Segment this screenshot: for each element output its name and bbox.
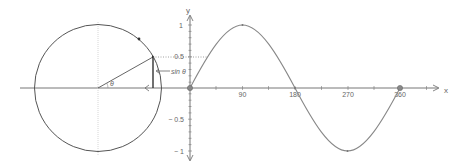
curve-min-point: [347, 150, 349, 152]
circle-direction-marker: [138, 38, 141, 41]
sine-label: sin θ: [171, 68, 186, 75]
y-tick-label: − 0.5: [168, 116, 184, 123]
x-tick-label: 270: [342, 91, 354, 98]
curve-max-point: [242, 24, 244, 26]
end-point: [397, 85, 402, 90]
y-tick-label: 1: [179, 22, 183, 29]
unit-circle-sine-diagram: sin θ θ x y 1 0.5 − 0.5 − 1: [0, 0, 465, 168]
y-tick-label: 0.5: [174, 53, 184, 60]
y-tick-label: − 1: [174, 148, 184, 155]
radius-line: [98, 57, 153, 88]
curve-zero-point: [294, 87, 296, 89]
x-axis-label: x: [444, 86, 448, 95]
angle-arc: [107, 83, 108, 88]
angle-label: θ: [110, 80, 114, 87]
x-tick-label: 90: [239, 91, 247, 98]
start-point: [187, 85, 192, 90]
x-tick-label: 180: [289, 91, 301, 98]
y-axis-label: y: [186, 6, 190, 15]
